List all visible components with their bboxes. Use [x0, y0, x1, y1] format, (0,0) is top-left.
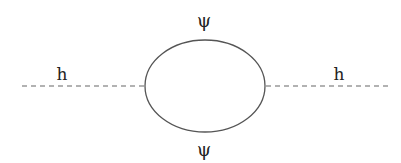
top-psi-label: ψ — [197, 10, 211, 31]
right-h-label: h — [334, 64, 345, 84]
fermion-loop — [145, 40, 265, 132]
bottom-psi-label: ψ — [197, 139, 211, 160]
left-h-label: h — [57, 64, 68, 84]
feynman-diagram: h h ψ ψ — [0, 0, 401, 163]
